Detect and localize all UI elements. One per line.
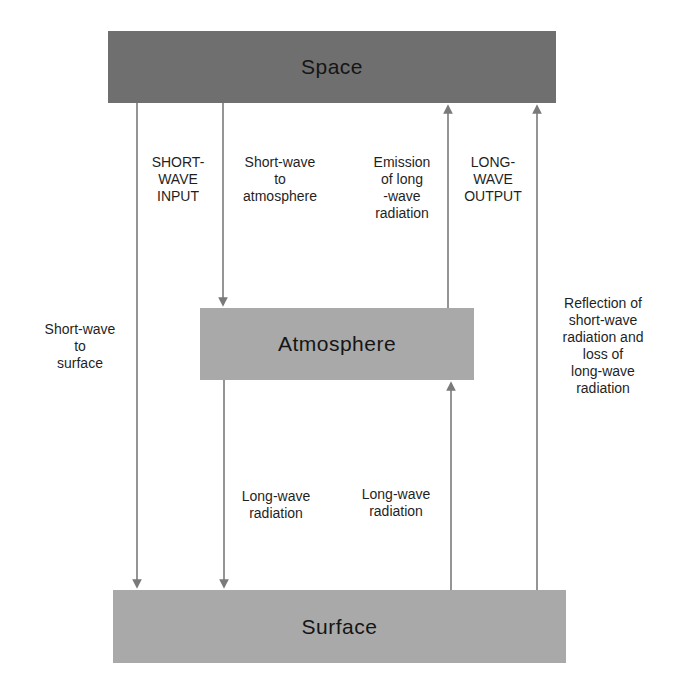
label-line: long-wave xyxy=(543,363,663,380)
label-line: Short-wave xyxy=(228,154,332,171)
atmosphere-label: Atmosphere xyxy=(278,332,396,356)
label-line: to xyxy=(228,171,332,188)
surface-label: Surface xyxy=(302,615,378,639)
label-line: radiation xyxy=(228,505,324,522)
label-shortwave-to-surface: Short-wave to surface xyxy=(28,321,132,372)
label-line: loss of xyxy=(543,346,663,363)
label-line: Long-wave xyxy=(228,488,324,505)
label-line: Long-wave xyxy=(348,486,444,503)
label-line: to xyxy=(28,338,132,355)
label-line: radiation xyxy=(360,205,444,222)
label-line: WAVE xyxy=(453,171,533,188)
label-line: INPUT xyxy=(143,188,213,205)
space-label: Space xyxy=(301,55,363,79)
label-line: Short-wave xyxy=(28,321,132,338)
label-shortwave-input: SHORT- WAVE INPUT xyxy=(143,154,213,205)
label-line: WAVE xyxy=(143,171,213,188)
label-line: short-wave xyxy=(543,312,663,329)
atmosphere-box: Atmosphere xyxy=(200,308,474,380)
label-line: Reflection of xyxy=(543,295,663,312)
label-shortwave-to-atmosphere: Short-wave to atmosphere xyxy=(228,154,332,205)
surface-box: Surface xyxy=(113,590,566,663)
label-reflection-loss: Reflection of short-wave radiation and l… xyxy=(543,295,663,397)
label-line: surface xyxy=(28,355,132,372)
space-box: Space xyxy=(108,31,556,103)
label-line: radiation xyxy=(348,503,444,520)
label-line: radiation xyxy=(543,380,663,397)
label-longwave-output: LONG- WAVE OUTPUT xyxy=(453,154,533,205)
label-longwave-surface-to-atm: Long-wave radiation xyxy=(348,486,444,520)
label-longwave-atm-to-surface: Long-wave radiation xyxy=(228,488,324,522)
label-line: Emission xyxy=(360,154,444,171)
label-line: OUTPUT xyxy=(453,188,533,205)
label-line: LONG- xyxy=(453,154,533,171)
label-line: atmosphere xyxy=(228,188,332,205)
label-line: SHORT- xyxy=(143,154,213,171)
label-line: of long xyxy=(360,171,444,188)
label-emission-longwave: Emission of long -wave radiation xyxy=(360,154,444,222)
label-line: -wave xyxy=(360,188,444,205)
label-line: radiation and xyxy=(543,329,663,346)
